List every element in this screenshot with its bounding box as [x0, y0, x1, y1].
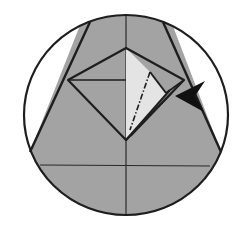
- origami-diagram: origami-step: [0, 0, 247, 233]
- diagram-canvas: [0, 0, 247, 233]
